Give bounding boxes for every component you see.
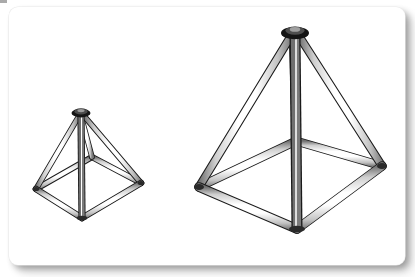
small-pyramid-apex-joint <box>72 108 91 117</box>
pyramids-illustration <box>0 0 415 277</box>
screenshot-stage <box>0 0 415 277</box>
large-pyramid-center-post <box>295 35 297 229</box>
diagram-canvas <box>0 0 415 277</box>
small-pyramid <box>33 108 145 220</box>
small-pyramid-center-post <box>81 115 82 218</box>
large-pyramid-apex-joint <box>281 26 309 39</box>
large-pyramid <box>194 26 387 232</box>
small-pyramid-base-front-edges <box>36 183 141 218</box>
